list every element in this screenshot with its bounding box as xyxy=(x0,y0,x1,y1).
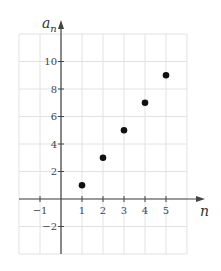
y-tick-label: 10 xyxy=(44,56,57,67)
y-axis-arrow-icon xyxy=(58,20,64,29)
data-point xyxy=(100,154,107,161)
x-tick-label: 1 xyxy=(79,205,85,216)
data-point xyxy=(121,127,128,134)
data-point xyxy=(142,99,149,106)
sequence-scatter-plot: −112345−2246810 n an xyxy=(0,0,221,271)
y-tick-label: 6 xyxy=(51,111,57,122)
y-axis-label-subscript: n xyxy=(50,23,56,34)
data-point xyxy=(79,182,86,189)
x-axis-arrow-icon xyxy=(196,196,205,202)
data-point xyxy=(163,72,170,79)
y-tick-label: −2 xyxy=(42,221,57,232)
x-tick-label: 2 xyxy=(100,205,106,216)
x-tick-label: −1 xyxy=(33,205,48,216)
y-axis-label-base: a xyxy=(42,15,50,31)
x-axis-label: n xyxy=(200,203,209,219)
x-tick-label: 3 xyxy=(121,205,127,216)
y-tick-label: 2 xyxy=(51,166,57,177)
y-tick-label: 8 xyxy=(51,84,57,95)
y-axis-label: an xyxy=(42,15,57,34)
x-tick-label: 5 xyxy=(163,205,169,216)
x-tick-label: 4 xyxy=(142,205,148,216)
y-tick-label: 4 xyxy=(51,139,57,150)
